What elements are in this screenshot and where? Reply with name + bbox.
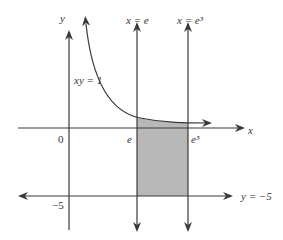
x-axis-label: x (247, 124, 253, 136)
tick-e-label: e (127, 133, 132, 145)
tick-minus5-label: −5 (52, 199, 64, 211)
origin-label: 0 (58, 133, 64, 145)
tick-e3-label: e³ (191, 133, 200, 145)
curve-xy-1 (86, 24, 210, 123)
shaded-region (137, 118, 188, 196)
line-x-e3-label: x = e³ (176, 14, 204, 26)
y-axis-label: y (59, 12, 65, 24)
line-x-e-label: x = e (125, 14, 149, 26)
diagram-canvas: y x x = e x = e³ xy = 1 0 e e³ −5 y = −5 (0, 0, 283, 240)
curve-label: xy = 1 (73, 74, 102, 86)
line-y-minus5-label: y = −5 (240, 190, 272, 202)
